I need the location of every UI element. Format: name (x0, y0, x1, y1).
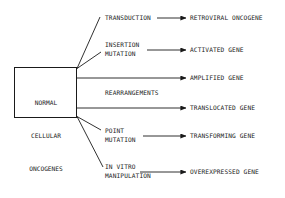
mechanism-label-manipulation: MANIPULATION (105, 172, 151, 181)
source-node-label-line-3: ONCOGENES (16, 163, 76, 174)
group-label-rearrangements: REARRANGEMENTS (105, 89, 159, 98)
outcome-label-activated-gene: ACTIVATED GENE (190, 46, 244, 55)
outcome-label-retroviral-oncogene: RETROVIRAL ONCOGENE (190, 14, 263, 23)
outcome-label-overexpressed-gene: OVEREXPRESSED GENE (190, 168, 259, 177)
outcome-label-transforming-gene: TRANSFORMING GENE (190, 132, 255, 141)
mechanism-label-insertion-mutation: MUTATION (105, 50, 136, 59)
mechanism-label-insertion: INSERTION (105, 41, 139, 50)
mechanism-label-transduction: TRANSDUCTION (105, 14, 151, 23)
mechanism-label-point: POINT (105, 127, 124, 136)
source-node-label-line-1: NORMAL (16, 97, 76, 108)
mechanism-label-point-mutation: MUTATION (105, 136, 136, 145)
outcome-label-translocated-gene: TRANSLOCATED GENE (190, 104, 255, 113)
outcome-label-amplified-gene: AMPLIFIED GENE (190, 74, 244, 83)
source-node-label-line-2: CELLULAR (16, 130, 76, 141)
mechanism-label-in-vitro: IN VITRO (105, 163, 136, 172)
oncogene-activation-diagram: NORMAL CELLULAR ONCOGENES TRANSDUCTION R… (0, 0, 285, 198)
source-node-label: NORMAL CELLULAR ONCOGENES (16, 75, 76, 196)
